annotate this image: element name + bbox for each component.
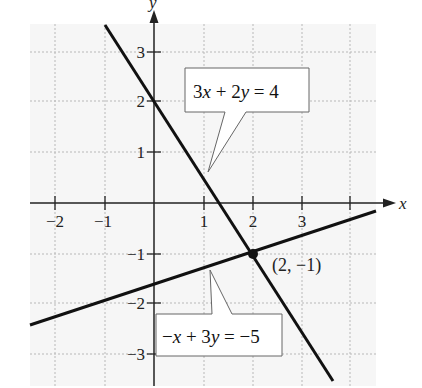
callout2-post: = −5 (219, 326, 259, 347)
intersection-label: (2, −1) (272, 255, 321, 276)
y-tick-label: 3 (137, 43, 146, 62)
callout1-mid: + 2 (211, 81, 241, 102)
x-tick-label: −1 (94, 212, 112, 231)
callout2-mid: + 3 (181, 326, 211, 347)
y-tick-label: 2 (137, 92, 146, 111)
x-tick-label: 2 (249, 212, 258, 231)
intersection-point (248, 249, 258, 259)
x-tick-label: 1 (200, 212, 209, 231)
x-tick-label: 3 (298, 212, 307, 231)
y-tick-label: −2 (127, 294, 145, 313)
y-axis-label: y (147, 0, 157, 12)
svg-text:3x + 2y = 4: 3x + 2y = 4 (193, 81, 279, 102)
callout1-var-y: y (239, 81, 250, 102)
callout1-post: = 4 (249, 81, 279, 102)
y-tick-label: −3 (127, 345, 145, 364)
x-axis-label: x (398, 194, 407, 213)
callout2-var-y: y (209, 326, 220, 347)
x-tick-label: −2 (46, 212, 64, 231)
chart: −2 −1 1 2 3 3 2 1 −1 −2 −3 x y (2, −1) 3… (0, 0, 422, 388)
svg-text:−x + 3y = −5: −x + 3y = −5 (162, 326, 260, 347)
y-tick-label: 1 (137, 143, 146, 162)
y-tick-label: −1 (127, 245, 145, 264)
callout2-pre: − (162, 326, 173, 347)
callout1-pre: 3 (193, 81, 203, 102)
x-axis-arrow-icon (383, 199, 396, 208)
